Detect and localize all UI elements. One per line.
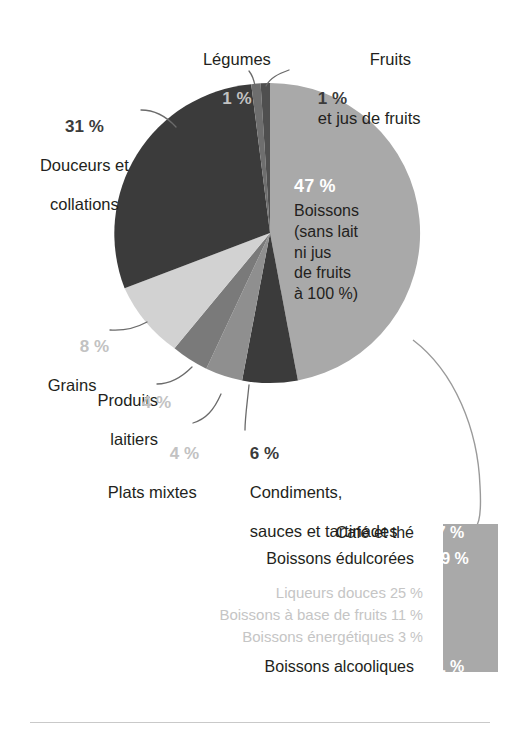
label-plats-mixtes: 4 % Plats mixtes xyxy=(90,425,230,522)
label-legumes-name: Légumes xyxy=(203,50,271,68)
label-douceurs-name2: collations xyxy=(50,195,119,213)
label-fruits-name2: et jus de fruits xyxy=(318,109,421,127)
label-legumes: Légumes 1 % xyxy=(183,31,273,128)
legend-label-cafe: Café et thé xyxy=(336,524,423,542)
label-legumes-percent: 1 % xyxy=(222,89,251,108)
leader-condiments xyxy=(245,385,249,430)
legend-row-edulcorees: Boissons édulcorées 39 % xyxy=(110,550,478,576)
label-fruits-name: Fruits xyxy=(370,50,411,68)
legend-value-edulcorees: 39 % xyxy=(423,550,478,568)
legend-label-energetiques: Boissons énergétiques xyxy=(242,628,394,645)
center-description: Boissons (sans lait ni jus de fruits à 1… xyxy=(294,201,404,305)
legend-row-cafe: Café et thé 7 % xyxy=(110,524,478,550)
legend-label-edulcorees: Boissons édulcorées xyxy=(266,550,423,568)
label-laitiers-percent: 4 % xyxy=(142,393,171,412)
legend-row-alcooliques: Boissons alcooliques 1 % xyxy=(110,658,478,684)
legend-row-base-fruits: Boissons à base de fruits 11 % xyxy=(110,606,478,628)
label-condiments-name: Condiments, xyxy=(250,483,343,501)
label-douceurs-percent: 31 % xyxy=(65,117,104,136)
footer-divider xyxy=(30,722,490,723)
label-douceurs-name: Douceurs et xyxy=(40,156,129,174)
legend-value-liqueurs: 25 % xyxy=(386,585,433,601)
legend-value-energetiques: 3 % xyxy=(394,629,433,645)
legend-spacer-1 xyxy=(110,576,478,584)
legend-row-energetiques: Boissons énergétiques 3 % xyxy=(110,628,478,650)
legend-row-liqueurs: Liqueurs douces 25 % xyxy=(110,584,478,606)
legend-label-alcooliques: Boissons alcooliques xyxy=(265,658,423,676)
center-callout: 47 % Boissons (sans lait ni jus de fruit… xyxy=(294,176,404,305)
label-douceurs: 31 % Douceurs et collations xyxy=(8,98,143,233)
beverages-breakdown-legend: Café et thé 7 % Boissons édulcorées 39 %… xyxy=(110,524,478,684)
label-fruits-percent: 1 % xyxy=(318,89,347,108)
label-condiments-percent: 6 % xyxy=(250,444,279,463)
legend-value-alcooliques: 1 % xyxy=(423,658,478,676)
legend-label-liqueurs: Liqueurs douces xyxy=(276,584,386,601)
label-mixtes-percent: 4 % xyxy=(170,444,199,463)
leader-mixtes xyxy=(193,394,221,423)
label-grains-percent: 8 % xyxy=(80,337,109,356)
legend-value-cafe: 7 % xyxy=(423,524,478,542)
label-mixtes-name: Plats mixtes xyxy=(108,483,197,501)
chart-canvas: 47 % Boissons (sans lait ni jus de fruit… xyxy=(0,0,520,729)
legend-label-base-fruits: Boissons à base de fruits xyxy=(219,606,387,623)
label-fruits: Fruits 1 % et jus de fruits xyxy=(300,31,515,147)
center-percent: 47 % xyxy=(294,176,404,197)
legend-value-base-fruits: 11 % xyxy=(387,607,433,623)
label-laitiers-percent-wrap: 4 % xyxy=(124,374,171,432)
legend-spacer-2 xyxy=(110,650,478,658)
